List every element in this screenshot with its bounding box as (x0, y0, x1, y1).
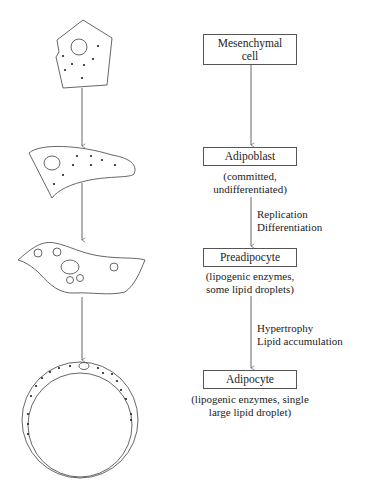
transition-line: Lipid accumulation (257, 335, 343, 348)
stage-label-line: Mesenchymal (204, 37, 296, 50)
stage-note-preadipocyte: (lipogenic enzymes, some lipid droplets) (195, 270, 305, 296)
stage-box-adipoblast: Adipoblast (203, 147, 297, 166)
note-line: undifferentiated) (200, 183, 300, 196)
stage-note-adipocyte: (lipogenic enzymes, single large lipid d… (180, 393, 320, 419)
stage-label-line: Adipoblast (204, 150, 296, 163)
transition-label-replication: Replication Differentiation (257, 208, 322, 234)
transition-label-hypertrophy: Hypertrophy Lipid accumulation (257, 322, 343, 348)
preadipocyte-cell-illustration (18, 242, 145, 293)
stage-label-line: Adipocyte (204, 373, 296, 386)
note-line: (lipogenic enzymes, single (180, 393, 320, 406)
note-line: large lipid droplet) (180, 406, 320, 419)
stage-box-adipocyte: Adipocyte (203, 370, 297, 389)
note-line: some lipid droplets) (195, 283, 305, 296)
stage-box-preadipocyte: Preadipocyte (203, 248, 297, 267)
stage-label-line: cell (204, 50, 296, 63)
stage-note-adipoblast: (committed, undifferentiated) (200, 170, 300, 196)
transition-line: Replication (257, 208, 322, 221)
adipocyte-cell-illustration (22, 362, 138, 478)
stage-box-mesenchymal-cell: Mesenchymal cell (203, 34, 297, 65)
transition-line: Differentiation (257, 221, 322, 234)
stage-label-line: Preadipocyte (204, 251, 296, 264)
mesenchymal-cell-illustration (56, 20, 112, 88)
transition-line: Hypertrophy (257, 322, 343, 335)
note-line: (lipogenic enzymes, (195, 270, 305, 283)
note-line: (committed, (200, 170, 300, 183)
